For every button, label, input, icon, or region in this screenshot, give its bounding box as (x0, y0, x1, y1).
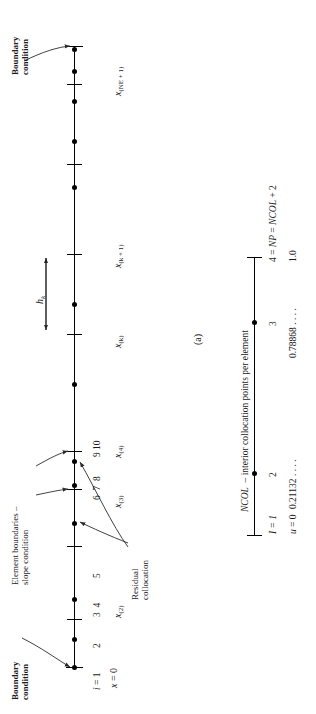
annotation-line-2: condition (20, 661, 30, 700)
panel-b-collocation-dot (252, 320, 257, 325)
annotation-line-1: Boundary (10, 661, 20, 700)
annotation-line-1: Residual (130, 560, 140, 600)
annotation-line-2: condition (20, 36, 30, 75)
station-label-xne1: x(NE + 1) (112, 67, 125, 96)
node-number-9-10: 9 10 (92, 440, 103, 457)
station-label-x4: x(4) (112, 445, 125, 458)
element-length-label: hk (34, 296, 47, 304)
node-dot (72, 185, 77, 190)
node-dot (72, 69, 77, 74)
element-boundary-tick (67, 334, 82, 335)
annotation-line-2: collocation (140, 560, 150, 600)
leader-boundary-condition-top (24, 46, 70, 61)
annotation-boundary-condition-top: Boundary condition (10, 36, 30, 75)
element-length-base: h (34, 299, 45, 304)
panel-b-value-4: 1.0 (288, 250, 299, 262)
station-label-x3: x(3) (112, 495, 125, 508)
element-boundary-tick (67, 84, 82, 85)
element-boundary-tick (67, 451, 82, 452)
leader-lines-overlay (0, 0, 316, 714)
origin-label: x = 0 (108, 668, 119, 688)
panel-b-endcap-top (247, 257, 262, 258)
panel-b-title: NCOL – interior collocation points per e… (240, 330, 251, 512)
panel-b-value-3: 0.78868 . . . . (288, 308, 299, 358)
annotation-line-1: Element boundaries – (10, 507, 20, 585)
element-boundary-tick (67, 489, 82, 490)
station-label-x2: x(2) (112, 605, 125, 618)
node-number-i1: i = 1 (92, 673, 103, 691)
node-number-2: 2 (92, 643, 103, 648)
leader-residual-collocation-1 (80, 522, 128, 543)
panel-b-index-3: 3 (268, 321, 279, 326)
node-dot (72, 597, 77, 602)
panel-b-endcap-bottom (247, 535, 262, 536)
node-dot (72, 139, 77, 144)
panel-b-index-2: 2 (268, 472, 279, 477)
node-dot (72, 459, 77, 464)
annotation-line-2: slope condition (20, 507, 30, 585)
element-boundary-tick (67, 254, 82, 255)
annotation-boundary-condition-bottom: Boundary condition (10, 661, 30, 700)
figure-canvas: Boundary condition Boundary condition El… (0, 0, 316, 714)
node-number-3-4: 3 4 (92, 603, 103, 617)
leader-element-boundary-2 (36, 451, 68, 466)
panel-b-value-1: u = 0 (288, 514, 299, 534)
node-dot (72, 521, 77, 526)
station-label-xk: x(k) (112, 335, 125, 348)
node-dot (72, 382, 77, 387)
annotation-residual-collocation: Residual collocation (130, 560, 150, 600)
element-length-subscript: k (39, 296, 47, 299)
panel-b-title-rest: – interior collocation points per elemen… (240, 330, 250, 485)
node-dot (72, 665, 77, 670)
panel-b-value-2: 0.21132 . . . . (288, 459, 299, 509)
panel-b-axis-line (254, 257, 255, 536)
panel-b-index-4: 4 = NP = NCOL + 2 (268, 185, 279, 262)
node-dot (72, 637, 77, 642)
node-dot (72, 483, 77, 488)
node-dot (72, 47, 77, 52)
annotation-element-boundaries: Element boundaries – slope condition (10, 507, 30, 585)
node-number-5: 5 (92, 573, 103, 578)
panel-b-collocation-dot (252, 471, 257, 476)
node-dot (72, 302, 77, 307)
element-boundary-tick (67, 546, 82, 547)
node-number-6-7-8: 6 7 8 (92, 476, 103, 500)
element-boundary-tick (67, 164, 82, 165)
annotation-line-1: Boundary (10, 36, 20, 75)
element-boundary-tick (67, 619, 82, 620)
station-label-xk1: x(k + 1) (112, 244, 125, 268)
leader-element-boundary-1 (36, 489, 68, 495)
node-dot (72, 99, 77, 104)
panel-label: (a) (192, 334, 203, 345)
panel-b-index-1: I = 1 (268, 515, 279, 534)
